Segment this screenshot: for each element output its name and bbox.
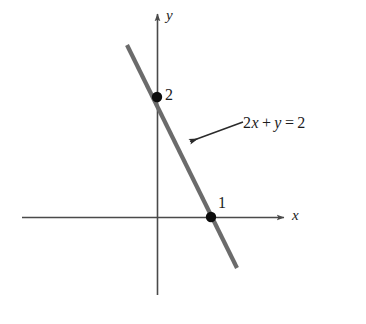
figure-canvas <box>0 0 366 324</box>
equation-equals-sign: = <box>282 114 297 131</box>
y-axis-label: y <box>166 8 173 23</box>
point-x-intercept <box>206 212 216 222</box>
annotation-arrow <box>190 122 243 142</box>
equation-annotation: 2x+y=2 <box>243 115 306 131</box>
x-intercept-label: 1 <box>218 195 226 211</box>
equation-variable-x: x <box>251 114 259 131</box>
point-y-intercept <box>152 92 162 102</box>
equation-variable-y: y <box>274 114 282 131</box>
plotted-line <box>127 45 237 268</box>
equation-plus-sign: + <box>259 114 274 131</box>
equation-right-side: 2 <box>297 114 305 131</box>
line-graph-figure: y x 2 1 2x+y=2 <box>0 0 366 324</box>
y-intercept-label: 2 <box>165 87 173 103</box>
x-axis-label: x <box>292 208 299 223</box>
